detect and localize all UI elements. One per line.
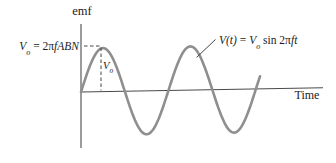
wave-equation: V(t) = Vo sin 2πft	[219, 34, 297, 46]
x-axis-label: Time	[290, 89, 324, 102]
y-axis-label-text: emf	[72, 4, 91, 18]
y-axis-label: emf	[64, 5, 100, 18]
wave-eq-vars: ft	[291, 34, 297, 46]
wave-eq-sin: sin 2π	[260, 34, 291, 46]
peak-eq-vars: fABN	[54, 40, 79, 52]
diagram-canvas	[0, 0, 336, 163]
wave-eq-subscript: o	[256, 42, 260, 51]
x-axis-label-text: Time	[295, 88, 320, 102]
wave-eq-var: V(t)	[219, 34, 237, 46]
peak-eq-subscript: o	[26, 48, 30, 57]
equation-leader-line	[197, 40, 216, 58]
peak-eq-mid: = 2π	[30, 40, 54, 52]
amplitude-marker-subscript: o	[109, 66, 113, 75]
x-axis-line	[81, 88, 323, 92]
wave-eq-equals: =	[237, 34, 249, 46]
amplitude-marker: Vo	[103, 60, 113, 71]
emf-sine-diagram: emf Vo = 2πfABN V(t) = Vo sin 2πft Vo Ti…	[0, 0, 336, 163]
peak-voltage-equation: Vo = 2πfABN	[6, 40, 79, 52]
